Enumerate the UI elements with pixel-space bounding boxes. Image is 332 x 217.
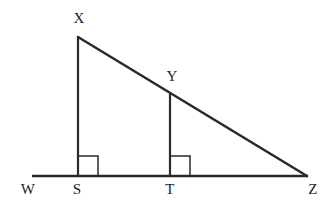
geometry-figure: X Y W S T Z xyxy=(0,0,332,217)
vertex-label-s: S xyxy=(73,182,82,197)
vertex-label-y: Y xyxy=(166,69,177,84)
vertex-label-z: Z xyxy=(308,182,317,197)
vertex-label-x: X xyxy=(73,11,84,26)
segment-hypotenuse-xz xyxy=(78,37,307,176)
right-angle-at-t-icon xyxy=(170,156,190,176)
vertex-label-t: T xyxy=(165,182,174,197)
right-angle-at-s-icon xyxy=(78,156,98,176)
vertex-label-w: W xyxy=(21,182,35,197)
